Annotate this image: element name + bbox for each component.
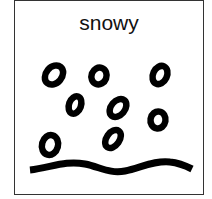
snowflake-icon: [150, 63, 171, 86]
snow-ground-wave: [30, 162, 192, 172]
snowflake-icon: [149, 110, 167, 129]
snowflakes: [40, 62, 171, 157]
snowflake-icon: [89, 65, 109, 86]
snow-weather-icon: [0, 0, 212, 199]
snowflake-icon: [106, 96, 130, 120]
snowflake-icon: [66, 94, 83, 115]
snowflake-icon: [40, 133, 61, 156]
snowflake-icon: [102, 127, 124, 151]
snowflake-icon: [41, 62, 67, 88]
